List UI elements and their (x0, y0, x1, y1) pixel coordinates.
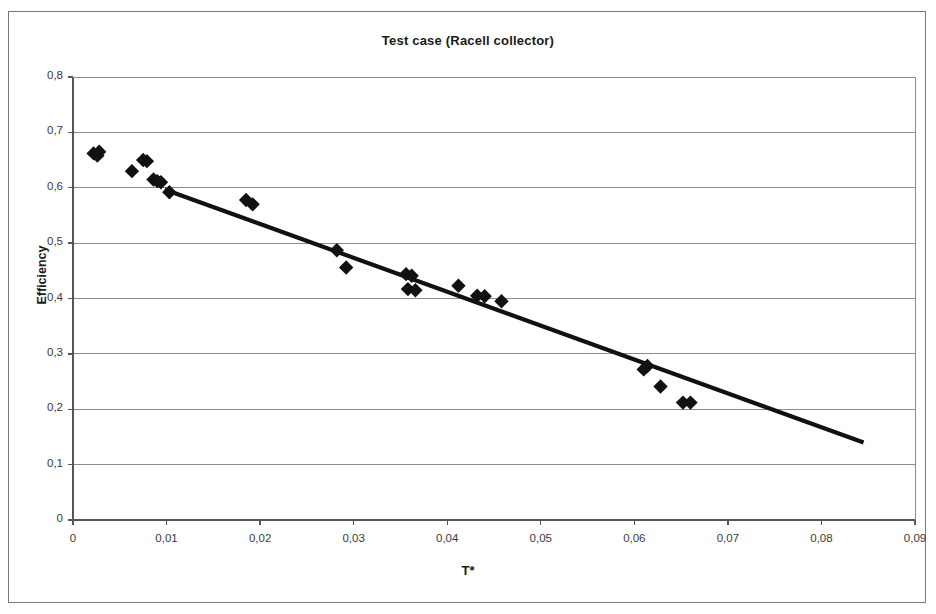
trend-line (165, 189, 864, 442)
chart-figure: Test case (Racell collector) Efficiency … (0, 0, 936, 614)
axis-ticks (68, 77, 915, 525)
x-tick-label: 0,04 (420, 532, 474, 544)
y-tick-label: 0,4 (17, 291, 63, 303)
x-tick-label: 0,01 (140, 532, 194, 544)
x-tick-label: 0,03 (327, 532, 381, 544)
x-tick-label: 0,05 (514, 532, 568, 544)
x-tick-label: 0,08 (794, 532, 848, 544)
y-tick-label: 0 (17, 512, 63, 524)
data-markers (86, 145, 697, 410)
x-tick-label: 0 (46, 532, 100, 544)
x-tick-label: 0,07 (701, 532, 755, 544)
y-tick-label: 0,1 (17, 457, 63, 469)
y-tick-label: 0,6 (17, 180, 63, 192)
y-tick-label: 0,8 (17, 69, 63, 81)
y-tick-label: 0,5 (17, 235, 63, 247)
x-tick-label: 0,02 (233, 532, 287, 544)
gridlines (73, 77, 915, 465)
x-tick-label: 0,06 (607, 532, 661, 544)
y-tick-label: 0,3 (17, 346, 63, 358)
y-tick-label: 0,2 (17, 401, 63, 413)
plot-area (0, 0, 936, 614)
y-tick-label: 0,7 (17, 124, 63, 136)
x-tick-label: 0,09 (888, 532, 936, 544)
